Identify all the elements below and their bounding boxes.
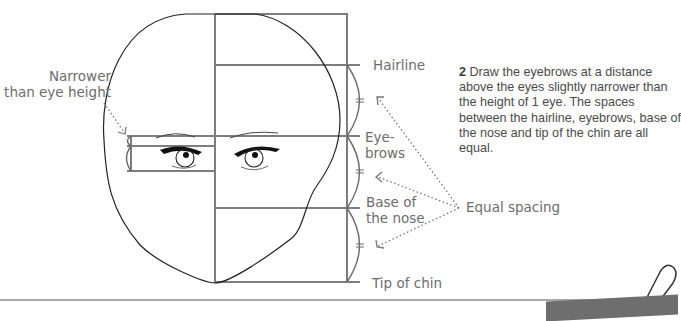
right-eye xyxy=(234,146,280,169)
narrower-label: Narrower than eye height xyxy=(0,68,111,100)
chin-label: Tip of chin xyxy=(372,275,442,291)
nose-label: Base of the nose xyxy=(366,194,425,226)
equal-spacing-label: Equal spacing xyxy=(466,199,560,215)
equal-tick-marks xyxy=(356,99,364,247)
guide-lines xyxy=(127,14,360,283)
hairline-label: Hairline xyxy=(373,57,425,73)
left-eye xyxy=(160,146,202,168)
instruction-text: 2 Draw the eyebrows at a distance above … xyxy=(459,65,681,156)
head-outline xyxy=(104,14,340,283)
step-text: Draw the eyebrows at a distance above th… xyxy=(459,65,681,155)
eyebrows-label: Eye- brows xyxy=(365,129,405,161)
step-number: 2 xyxy=(459,65,466,79)
narrower-arrow xyxy=(104,103,124,132)
arrow-heads xyxy=(118,97,384,248)
